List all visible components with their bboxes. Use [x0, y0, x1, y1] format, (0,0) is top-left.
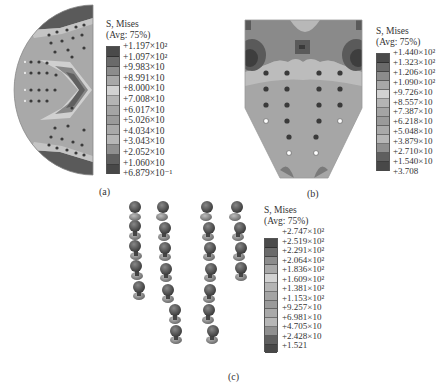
bolt-columns-plot: [110, 195, 260, 360]
caption-c: (c): [228, 371, 239, 382]
legend-values: +1.440×10² +1.323×10² +1.206×10² +1.090×…: [393, 48, 435, 177]
plate-contour-plot: [220, 0, 370, 190]
legend-title: S, Mises: [376, 26, 442, 37]
legend-values: +2.747×10² +2.519×10² +2.291×10² +2.064×…: [282, 227, 324, 351]
caption-a: (a): [99, 186, 110, 197]
panel-b: S, Mises (Avg: 75%) +1.440×10² +1.323×10…: [220, 0, 442, 200]
legend-subtitle: (Avg: 75%): [106, 30, 216, 41]
color-scale-bar: [376, 53, 390, 171]
color-scale-bar: [106, 46, 120, 174]
panel-c: S, Mises (Avg: 75%) +2.747×10² +2.519×10…: [110, 195, 360, 388]
bolt-column-3: [200, 201, 219, 344]
bolt-column-4: [229, 201, 247, 281]
legend-c: S, Mises (Avg: 75%) +2.747×10² +2.519×10…: [264, 205, 360, 360]
legend-title: S, Mises: [264, 205, 360, 216]
bolt-column-2: [156, 201, 182, 344]
legend-a: S, Mises (Avg: 75%) +1.197×10² +1.097×10…: [106, 19, 216, 169]
half-disc-contour-plot: [0, 0, 110, 180]
legend-b: S, Mises (Avg: 75%) +1.440×10² +1.323×10…: [376, 26, 442, 176]
legend-title: S, Mises: [106, 19, 216, 30]
bolt-column-1: [129, 201, 145, 300]
color-scale-bar: [264, 238, 278, 352]
panel-a: S, Mises (Avg: 75%) +1.197×10² +1.097×10…: [0, 0, 221, 200]
legend-values: +1.197×10² +1.097×10² +9.983×10 +8.991×1…: [123, 41, 172, 179]
